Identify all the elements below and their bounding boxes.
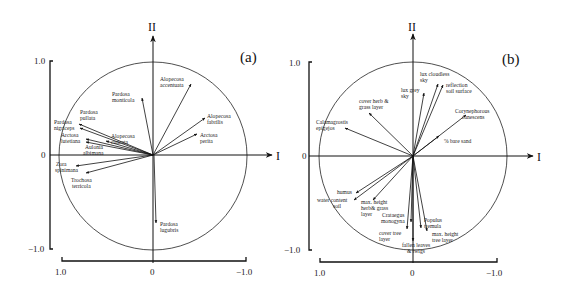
axis-II-label: II [148,20,156,34]
vector-arrow [154,155,156,223]
label-alopecosa-fabrilis: Alopecosafabrilis [207,113,231,125]
label-pardosa-monticola: Pardosamonticola [112,91,135,103]
vector-arrow [345,128,413,156]
panel-b: I II (b) 1.0 0 −1.0 1.0 0 −1.0 lux cloud [284,20,541,278]
vector-arrow [369,113,413,156]
label-lux-cloudless-sky: lux cloudlesssky [420,71,449,83]
axis-II-label: II [408,20,416,34]
label-arctosa-lutetiana: Arctosalutetiana [61,132,81,144]
axis-I-label: I [276,149,280,163]
label-aulonia-albimana: Auloniaalbimana [83,144,104,156]
label-pardosa-lugubris: Pardosalugubris [160,221,178,233]
vector-arrow [86,155,153,173]
panel-a: I II (a) 1.0 0 −1.0 1.0 0 −1.0 Pardosamo… [28,20,280,277]
label-pardosa-nigriceps: Pardosanigriceps [54,119,75,131]
vector-arrow [153,134,197,155]
y-tick-top: 1.0 [289,58,301,68]
label-humus: humus [337,189,352,195]
label-reflection-soil-surface: reflectionsoil surface [446,82,472,94]
y-tick-bottom: −1.0 [284,245,301,255]
label-cover-tree-layer: cover treelayer [379,230,402,242]
y-tick-zero: 0 [302,151,307,161]
label-bare-sand: % bare sand [444,138,472,144]
label-alopecosa-accentuata: Alopecosaaccentuata [160,76,184,88]
x-tick-zero: 0 [410,268,415,278]
panel-label: (b) [502,51,520,68]
label-crataegus-monogyna: Crataegusmonogyna [381,212,405,224]
pca-biplot-figure: I II (a) 1.0 0 −1.0 1.0 0 −1.0 Pardosamo… [0,0,569,295]
vector-arrow [76,155,153,166]
x-scale-bar [62,257,246,261]
label-arctosa-perita: Arctosaperita [200,132,218,144]
x-tick-left: 1.0 [314,268,326,278]
vector-arrow [153,84,191,155]
label-calamagrostis-epigejos: Calamagrostisepigejos [316,119,348,131]
label-cover-herb-grass-layer: cover herb &grass layer [359,98,389,110]
x-tick-right: −1.0 [236,267,253,277]
label-populus-tremula: Populustremula [424,217,442,229]
x-tick-left: 1.0 [55,267,67,277]
label-fallen-leaves-twigs: fallen leaves& twigs [402,242,430,254]
label-alopecosa-cuneata: Alopecosacuneata [111,133,135,145]
vector-arrow [354,156,413,200]
label-pardosa-pullata: Pardosapullata [80,109,98,121]
label-corynephorous-canescens: Corynephorouscanescens [455,108,490,120]
vector-arrow [413,93,424,156]
vector-arrow [413,85,443,156]
x-tick-zero: 0 [150,267,155,277]
y-tick-bottom: −1.0 [28,244,45,254]
label-water-content-soil: water contentsoil [317,197,348,209]
axis-I-label: I [537,150,541,164]
label-max-height-tree-layer: max. heighttree layer [432,231,459,243]
label-lux-grey-sky: lux greysky [401,87,420,99]
panel-label: (a) [240,49,257,66]
vector-arrow [413,84,438,156]
label-zora-spinimana: Zoraspinimana [55,161,79,173]
label-trochosa-terricola: Trochosaterricola [71,177,92,189]
vector-arrow [153,118,205,155]
x-tick-right: −1.0 [486,268,503,278]
x-scale-bar [320,258,497,262]
y-tick-top: 1.0 [34,56,46,66]
y-tick-zero: 0 [41,150,46,160]
vector-arrow [142,98,153,155]
